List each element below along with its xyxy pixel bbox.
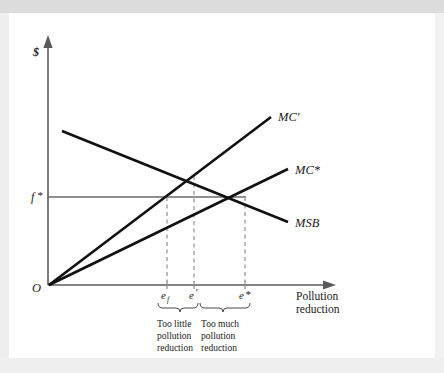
figure-root: MC′ MC* MSB $ O f * Pollution reduction …: [0, 0, 444, 373]
brace-too-little: [158, 303, 198, 312]
annotation-too-much-line1: Too much: [201, 319, 239, 329]
x-tick-label-ef-sub: f: [167, 295, 170, 304]
x-tick-label-ef: e f: [161, 289, 170, 304]
curves-group: [49, 117, 288, 285]
annotation-too-much: Too much pollution reduction: [201, 319, 239, 353]
x-axis-label-line1: Pollution: [296, 290, 338, 302]
annotation-too-little: Too little pollution reduction: [157, 319, 193, 353]
x-tick-label-e-prime-sup: ′: [195, 286, 198, 298]
annotation-too-much-line2: pollution: [201, 331, 236, 341]
x-tick-label-e-star-sup: *: [245, 288, 251, 300]
brace-too-much: [200, 303, 250, 312]
curve-label-msb: MSB: [294, 216, 320, 230]
annotation-too-little-line3: reduction: [157, 343, 193, 353]
x-tick-labels-group: e f e ′ e *: [161, 286, 251, 304]
y-axis-label: $: [32, 45, 39, 59]
annotation-too-little-line1: Too little: [157, 319, 191, 329]
chart-svg: MC′ MC* MSB $ O f * Pollution reduction …: [0, 0, 444, 373]
y-axis-arrowhead: [43, 35, 52, 48]
level-label-f-star-sup: *: [37, 189, 43, 201]
x-tick-label-e-prime-base: e: [189, 289, 194, 301]
axes-group: [43, 35, 336, 290]
annotation-too-little-line2: pollution: [157, 331, 192, 341]
braces-group: [158, 303, 250, 312]
x-tick-label-e-star-base: e: [239, 289, 244, 301]
x-tick-label-e-prime: e ′: [189, 286, 198, 301]
x-tick-label-e-star: e *: [239, 288, 251, 301]
curve-label-mc-prime: MC′: [277, 110, 300, 124]
origin-label: O: [32, 281, 41, 295]
x-tick-label-ef-base: e: [161, 289, 166, 301]
curve-mc-star: [49, 169, 288, 285]
x-axis-label-line2: reduction: [296, 303, 340, 315]
level-label-f-star-base: f: [31, 190, 36, 204]
curve-label-mc-star: MC*: [294, 163, 321, 177]
curve-msb: [62, 131, 288, 222]
level-label-f-star: f *: [31, 189, 43, 204]
drop-lines-group: [167, 176, 245, 282]
annotation-too-much-line3: reduction: [201, 343, 237, 353]
x-axis-arrowhead: [323, 280, 336, 289]
